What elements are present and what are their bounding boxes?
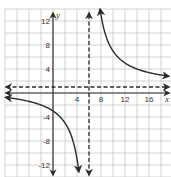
y-tick-label: -8 bbox=[43, 137, 51, 146]
x-tick-label: 16 bbox=[145, 95, 154, 104]
y-tick-label: -4 bbox=[43, 113, 51, 122]
curves bbox=[6, 9, 169, 172]
x-tick-label: 4 bbox=[75, 95, 80, 104]
curve-right-branch bbox=[100, 9, 169, 76]
axes bbox=[6, 13, 169, 175]
x-tick-label: 12 bbox=[121, 95, 130, 104]
tick-labels: 4812161284-4-8-12xy bbox=[38, 10, 169, 170]
rational-function-graph: 4812161284-4-8-12xy bbox=[0, 0, 171, 177]
x-axis-label: x bbox=[164, 94, 169, 104]
y-tick-label: -12 bbox=[38, 161, 50, 170]
y-tick-label: 8 bbox=[46, 41, 51, 50]
asymptotes bbox=[6, 13, 169, 175]
y-axis-label: y bbox=[55, 10, 60, 20]
y-tick-label: 4 bbox=[46, 65, 51, 74]
x-tick-label: 8 bbox=[99, 95, 104, 104]
y-tick-label: 12 bbox=[41, 17, 50, 26]
